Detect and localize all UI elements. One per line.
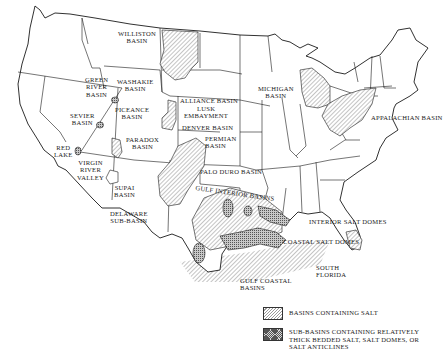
label-denver-basin: DENVER BASIN [182, 124, 233, 131]
label-permian-basin: PERMIAN BASIN [205, 135, 236, 150]
label-coastal-salt-domes: COASTAL SALT DOMES [283, 238, 359, 245]
label-virgin-river-valley: VIRGIN RIVER VALLEY [77, 159, 104, 181]
label-appalachian-basin: APPALACHIAN BASIN [371, 114, 443, 121]
label-green-river-basin: GREEN RIVER BASIN [85, 76, 108, 98]
map-legend: BASINS CONTAINING SALT SUB-BASINS CONTAI… [263, 307, 419, 357]
legend-label: BASINS CONTAINING SALT [289, 309, 378, 317]
label-sevier-basin: SEVIER BASIN [70, 112, 95, 127]
dense-crosshatch-swatch-icon [263, 328, 283, 341]
label-paradox-basin: PARADOX BASIN [126, 136, 159, 151]
legend-label: SUB-BASINS CONTAINING RELATIVELY THICK B… [289, 328, 419, 351]
diagonal-hatch-swatch-icon [263, 307, 283, 320]
label-piceance-basin: PICEANCE BASIN [115, 106, 149, 121]
label-delaware-sub-basin: DELAWARE SUB-BASIN [110, 210, 148, 225]
label-gulf-coastal-basins: GULF COASTAL BASINS [240, 277, 292, 292]
label-supai-basin: SUPAI BASIN [114, 184, 135, 199]
label-washakie-basin: WASHAKIE BASIN [117, 78, 153, 93]
label-south-florida: SOUTH FLORIDA [316, 264, 346, 279]
label-williston-basin: WILLISTON BASIN [118, 30, 156, 45]
label-michigan-basin: MICHIGAN BASIN [258, 85, 294, 100]
legend-item-thick-salt-sub-basins: SUB-BASINS CONTAINING RELATIVELY THICK B… [263, 328, 419, 351]
label-red-lake: RED LAKE [54, 144, 73, 159]
label-lusk-embayment: LUSK EMBAYMENT [184, 105, 228, 120]
label-interior-salt-domes: INTERIOR SALT DOMES [309, 218, 387, 225]
legend-item-basins-containing-salt: BASINS CONTAINING SALT [263, 307, 419, 320]
label-palo-duro-basin: PALO DURO BASIN [200, 168, 262, 175]
label-alliance-basin: ALLIANCE BASIN [180, 97, 238, 104]
us-salt-basin-map [0, 0, 447, 357]
